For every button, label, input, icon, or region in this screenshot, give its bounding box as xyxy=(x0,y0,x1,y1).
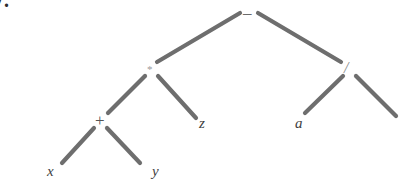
node-multiplication: * xyxy=(147,64,153,75)
tree-edges-canvas xyxy=(0,0,403,181)
expression-tree-figure: 7. – * / + z a x y xyxy=(0,0,403,181)
tree-edge-mul-plus xyxy=(108,76,145,113)
tree-edge-mul-z xyxy=(158,76,196,118)
tree-edge-plus-y xyxy=(107,128,140,163)
leaf-variable-x: x xyxy=(47,164,54,179)
tree-edge-root-mul xyxy=(157,13,240,62)
tree-edge-root-div xyxy=(258,13,341,62)
tree-edge-plus-x xyxy=(62,128,94,163)
node-root-subtraction: – xyxy=(243,4,252,21)
leaf-variable-z: z xyxy=(199,116,205,131)
leaf-variable-a: a xyxy=(295,116,303,131)
leaf-variable-y: y xyxy=(152,164,159,179)
node-addition: + xyxy=(95,112,105,129)
node-division: / xyxy=(344,60,348,76)
tree-edge-div-a xyxy=(305,76,343,113)
tree-edge-div-right xyxy=(356,76,396,116)
